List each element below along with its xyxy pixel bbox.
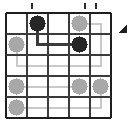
arrow-icon <box>118 24 127 33</box>
grid-puzzle-svg <box>0 0 131 126</box>
token-light-t7[interactable] <box>92 78 108 94</box>
tick-mark-tick2 <box>84 3 86 9</box>
token-dark-t4[interactable] <box>71 36 87 52</box>
token-dark-t1[interactable] <box>29 15 45 31</box>
tick-mark-group <box>31 3 97 9</box>
token-light-t3[interactable] <box>8 36 24 52</box>
tick-mark-tick3 <box>95 3 97 9</box>
tick-mark-tick1 <box>31 3 33 9</box>
diagram-canvas <box>0 0 131 126</box>
token-light-t2[interactable] <box>71 15 87 31</box>
token-light-t8[interactable] <box>8 99 24 115</box>
token-light-t6[interactable] <box>71 78 87 94</box>
path-group <box>17 24 101 108</box>
token-light-t5[interactable] <box>8 78 24 94</box>
arrow-group <box>118 24 127 33</box>
